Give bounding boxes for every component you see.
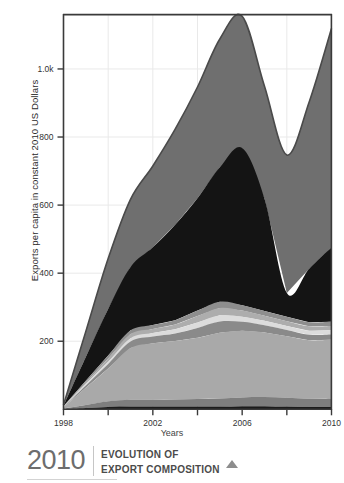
x-tick-label: 2002 bbox=[143, 418, 162, 428]
y-tick-label: 200 bbox=[39, 336, 53, 346]
infographic-figure: 2004006008001.0k 1998200220062010 Export… bbox=[0, 0, 344, 483]
footer-title-block: EVOLUTION OF EXPORT COMPOSITION bbox=[101, 446, 220, 475]
chart-area: 2004006008001.0k 1998200220062010 Export… bbox=[0, 0, 344, 430]
x-tick-label: 2010 bbox=[322, 418, 341, 428]
triangle-up-icon bbox=[226, 460, 238, 468]
y-tick-label: 600 bbox=[39, 200, 53, 210]
y-tick-label: 400 bbox=[39, 268, 53, 278]
footer-divider bbox=[93, 446, 94, 476]
y-tick-label: 800 bbox=[39, 132, 53, 142]
y-axis-title: Exports per capita in constant 2010 US D… bbox=[29, 51, 40, 311]
footer-year: 2010 bbox=[0, 446, 85, 474]
x-tick-label: 1998 bbox=[54, 418, 73, 428]
y-tick-label: 1.0k bbox=[37, 64, 54, 74]
footer-rule bbox=[27, 479, 117, 480]
x-axis-title: Years bbox=[0, 428, 344, 438]
footer-title-line-2: EXPORT COMPOSITION bbox=[101, 461, 220, 476]
x-tick-label: 2006 bbox=[233, 418, 252, 428]
footer-title-line-1: EVOLUTION OF bbox=[101, 446, 220, 461]
stacked-area-chart: 2004006008001.0k 1998200220062010 bbox=[0, 0, 344, 430]
footer-caption: 2010 EVOLUTION OF EXPORT COMPOSITION bbox=[0, 446, 344, 483]
